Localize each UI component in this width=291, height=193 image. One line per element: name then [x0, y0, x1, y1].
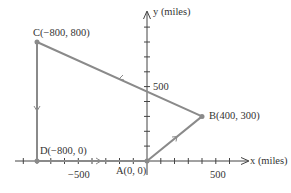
segment-a-b	[147, 116, 202, 161]
coordinate-diagram: y (miles) x (miles) 500 −500 500 C(−800,…	[0, 0, 291, 193]
arrow-b-c-icon	[119, 75, 124, 80]
x-axis-label: x (miles)	[250, 156, 288, 167]
x-tick-label-neg-500: −500	[68, 170, 90, 181]
x-tick-label-500: 500	[210, 170, 226, 181]
y-axis-label: y (miles)	[153, 7, 191, 18]
point-c-label: C(−800, 800)	[33, 28, 90, 39]
y-tick-label-500: 500	[153, 82, 169, 93]
point-d	[35, 159, 40, 164]
travel-path	[37, 42, 202, 161]
point-b-label: B(400, 300)	[209, 111, 260, 122]
point-b	[200, 114, 205, 119]
point-c	[35, 40, 40, 45]
point-a	[145, 159, 150, 164]
point-d-label: D(−800, 0)	[40, 146, 87, 157]
point-a-label: A(0, 0)	[116, 166, 146, 177]
